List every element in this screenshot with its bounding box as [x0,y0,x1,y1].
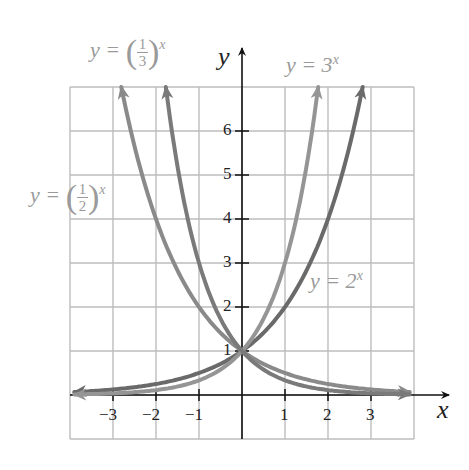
x-tick-label: −2 [142,405,160,425]
label-one-half-x: y = (12)x [30,178,106,216]
x-tick-label: 3 [366,405,375,425]
x-tick-label: −1 [185,405,203,425]
x-tick-label: 2 [323,405,332,425]
y-tick-label: 1 [223,340,232,360]
y-tick-label: 6 [223,120,232,140]
x-tick-label: 1 [280,405,289,425]
curve-y-1-3-x [166,87,410,394]
y-equals: y = [90,37,120,62]
y-axis-label: y [218,42,230,72]
y-tick-label: 4 [223,208,232,228]
exponential-functions-chart [0,0,469,470]
label-2x: y = 2x [310,268,363,294]
curve-y-1-2-x [121,87,409,392]
label-3x: y = 3x [286,52,339,78]
y-tick-label: 3 [223,252,232,272]
curve-y-2-x [74,87,362,392]
label-one-third-x: y = (13)x [90,33,166,71]
curve-y-3-x [74,87,318,394]
y-tick-label: 5 [223,164,232,184]
y-tick-label: 2 [223,296,232,316]
x-axis-label: x [437,395,449,425]
x-tick-label: −3 [99,405,117,425]
